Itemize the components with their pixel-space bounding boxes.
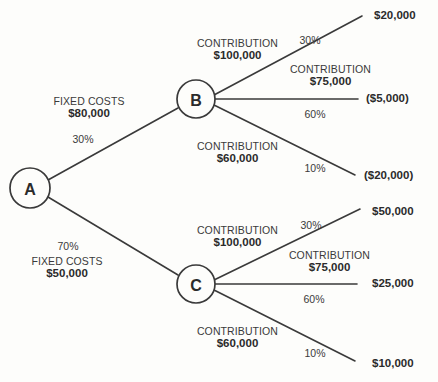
outcome-b-mid: ($5,000) (366, 92, 409, 106)
branch-label-b-high: CONTRIBUTION $100,000 (185, 37, 290, 63)
node-a[interactable]: A (10, 168, 50, 208)
c-mid-probability: 60% (296, 293, 332, 305)
outcome-b-high: $20,000 (374, 9, 416, 23)
node-c-label: C (190, 277, 202, 294)
c-low-contribution-value: $60,000 (185, 337, 290, 351)
b-low-probability: 10% (297, 162, 333, 174)
b-high-contribution-label: CONTRIBUTION (185, 37, 290, 49)
c-low-contribution-label: CONTRIBUTION (185, 325, 290, 337)
node-b-label: B (190, 92, 202, 109)
branch-label-c-low: CONTRIBUTION $60,000 (185, 325, 290, 351)
c-high-contribution-value: $100,000 (185, 236, 290, 250)
branch-label-a-to-c: FIXED COSTS $50,000 (12, 255, 122, 281)
b-low-contribution-value: $60,000 (185, 152, 290, 166)
node-c[interactable]: C (177, 265, 215, 303)
node-b[interactable]: B (177, 80, 215, 118)
outcome-b-low: ($20,000) (364, 169, 413, 183)
b-high-contribution-value: $100,000 (185, 49, 290, 63)
c-mid-contribution-value: $75,000 (277, 261, 382, 275)
outcome-c-low: $10,000 (372, 357, 414, 371)
a-to-c-cost-label: FIXED COSTS (12, 255, 122, 267)
branch-label-b-low: CONTRIBUTION $60,000 (185, 140, 290, 166)
outcome-c-high: $50,000 (372, 205, 414, 219)
c-high-contribution-label: CONTRIBUTION (185, 224, 290, 236)
b-high-probability: 30% (292, 34, 328, 46)
b-mid-contribution-value: $75,000 (278, 75, 383, 89)
branch-label-b-mid: CONTRIBUTION $75,000 (278, 63, 383, 89)
a-to-b-probability: 30% (63, 133, 103, 145)
b-mid-contribution-label: CONTRIBUTION (278, 63, 383, 75)
a-to-c-cost-value: $50,000 (12, 267, 122, 281)
node-a-label: A (24, 181, 36, 198)
a-to-b-cost-label: FIXED COSTS (34, 95, 144, 107)
b-low-contribution-label: CONTRIBUTION (185, 140, 290, 152)
c-mid-contribution-label: CONTRIBUTION (277, 249, 382, 261)
a-to-c-probability: 70% (48, 240, 88, 252)
c-low-probability: 10% (297, 347, 333, 359)
branch-label-c-mid: CONTRIBUTION $75,000 (277, 249, 382, 275)
a-to-b-cost-value: $80,000 (34, 107, 144, 121)
branch-label-a-to-b: FIXED COSTS $80,000 (34, 95, 144, 121)
outcome-c-mid: $25,000 (372, 277, 414, 291)
c-high-probability: 30% (293, 219, 329, 231)
b-mid-probability: 60% (297, 108, 333, 120)
branch-label-c-high: CONTRIBUTION $100,000 (185, 224, 290, 250)
